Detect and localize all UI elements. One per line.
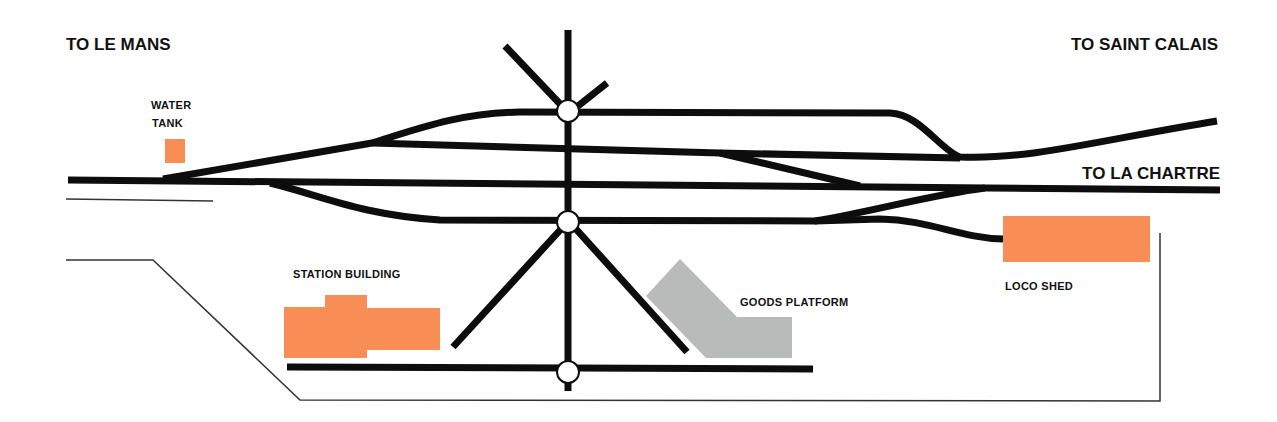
track-top-radial-right xyxy=(578,83,607,106)
label-to-la-chartre: TO LA CHARTRE xyxy=(1082,164,1220,183)
turntable-middle xyxy=(557,211,579,233)
label-water-tank-line2: TANK xyxy=(152,117,183,129)
track-top-radial-left xyxy=(505,46,562,106)
loco-shed xyxy=(1003,216,1150,262)
boundary-line-left xyxy=(66,199,213,201)
label-water-tank-line1: WATER xyxy=(151,99,191,111)
turntable-top xyxy=(557,100,579,122)
turntable-bottom xyxy=(557,361,579,383)
track-main-line xyxy=(68,180,1220,190)
station-building xyxy=(284,295,440,358)
track-loco-shed-spur xyxy=(815,219,1003,239)
station-track-diagram: TO LE MANS TO SAINT CALAIS TO LA CHARTRE… xyxy=(0,0,1277,422)
track-station-siding xyxy=(287,367,813,369)
boundary-line-yard xyxy=(66,233,1160,401)
track-middle-radial-left xyxy=(453,228,562,347)
water-tank xyxy=(165,139,185,163)
goods-platform xyxy=(646,259,792,358)
label-to-le-mans: TO LE MANS xyxy=(66,35,171,54)
track-upper-loop xyxy=(372,143,960,158)
label-station-building: STATION BUILDING xyxy=(293,268,401,280)
track-saint-calais-line xyxy=(163,112,1217,179)
label-goods-platform: GOODS PLATFORM xyxy=(740,296,849,308)
label-loco-shed: LOCO SHED xyxy=(1005,280,1073,292)
label-to-saint-calais: TO SAINT CALAIS xyxy=(1071,35,1218,54)
